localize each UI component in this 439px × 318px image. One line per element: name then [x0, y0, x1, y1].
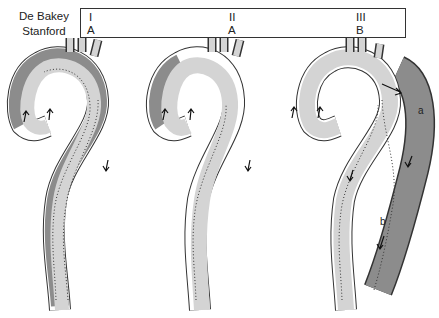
aorta-type-3: a b [291, 38, 424, 310]
false-lumen-label-a: a [418, 105, 424, 116]
false-lumen-label-b: b [380, 216, 386, 227]
aortic-dissection-diagrams: a b [0, 0, 439, 318]
aorta-type-2 [157, 38, 251, 310]
aorta-type-1 [18, 38, 109, 310]
